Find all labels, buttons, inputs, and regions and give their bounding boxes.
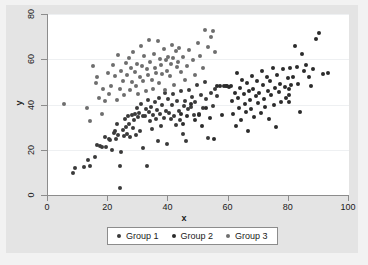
x-tick-mark-80 bbox=[288, 196, 289, 201]
x-tick-mark-60 bbox=[228, 196, 229, 201]
data-point bbox=[62, 102, 66, 106]
gridline-y-20 bbox=[48, 150, 349, 151]
data-point bbox=[250, 74, 254, 78]
data-point bbox=[278, 82, 282, 86]
data-point bbox=[119, 150, 123, 154]
data-point bbox=[192, 113, 196, 117]
data-point bbox=[257, 91, 261, 95]
data-point bbox=[136, 92, 140, 96]
data-point bbox=[124, 61, 128, 65]
data-point bbox=[163, 88, 167, 92]
data-point bbox=[184, 139, 188, 143]
data-point bbox=[157, 81, 161, 85]
data-point bbox=[106, 71, 110, 75]
data-point bbox=[262, 97, 266, 101]
data-point bbox=[88, 119, 92, 123]
data-point bbox=[254, 94, 258, 98]
data-point bbox=[166, 97, 170, 101]
legend-label: Group 2 bbox=[181, 231, 214, 241]
data-point bbox=[159, 124, 163, 128]
data-point bbox=[128, 88, 132, 92]
data-point bbox=[236, 96, 240, 100]
data-point bbox=[277, 90, 281, 94]
data-point bbox=[144, 89, 148, 93]
data-point bbox=[116, 133, 120, 137]
data-point bbox=[122, 93, 126, 97]
data-point bbox=[73, 166, 77, 170]
data-point bbox=[128, 135, 132, 139]
data-point bbox=[287, 93, 291, 97]
data-point bbox=[203, 80, 207, 84]
data-point bbox=[168, 74, 172, 78]
data-point bbox=[286, 76, 290, 80]
legend-entry-2[interactable]: Group 2 bbox=[172, 231, 214, 241]
scatter-plot-figure: 020406080 020406080100 y x Group 1Group … bbox=[0, 0, 368, 265]
data-point bbox=[158, 57, 162, 61]
data-point bbox=[152, 52, 156, 56]
data-point bbox=[109, 84, 113, 88]
data-point bbox=[200, 124, 204, 128]
data-point bbox=[295, 65, 299, 69]
data-point bbox=[261, 83, 265, 87]
data-point bbox=[170, 43, 174, 47]
y-tick-label-40: 40 bbox=[24, 100, 38, 110]
y-tick-mark-40 bbox=[41, 105, 47, 106]
data-point bbox=[147, 38, 151, 42]
data-point bbox=[157, 96, 161, 100]
data-point bbox=[230, 99, 234, 103]
y-tick-label-text: 60 bbox=[26, 54, 36, 64]
data-point bbox=[146, 98, 150, 102]
x-tick-label-20: 20 bbox=[92, 202, 122, 212]
data-point bbox=[213, 50, 217, 54]
data-point bbox=[103, 135, 107, 139]
data-point bbox=[142, 54, 146, 58]
data-point bbox=[159, 63, 163, 67]
data-point bbox=[172, 83, 176, 87]
gridline-y-80 bbox=[48, 14, 349, 15]
data-point bbox=[179, 89, 183, 93]
data-point bbox=[309, 84, 313, 88]
y-tick-label-text: 20 bbox=[26, 145, 36, 155]
x-tick-mark-100 bbox=[348, 196, 349, 201]
legend-label: Group 1 bbox=[126, 231, 159, 241]
data-point bbox=[103, 99, 107, 103]
data-point bbox=[304, 63, 308, 67]
x-axis-title: x bbox=[0, 213, 368, 223]
data-point bbox=[123, 117, 127, 121]
legend[interactable]: Group 1Group 2Group 3 bbox=[107, 227, 278, 245]
data-point bbox=[147, 110, 151, 114]
data-point bbox=[191, 58, 195, 62]
data-point bbox=[86, 158, 90, 162]
data-point bbox=[91, 64, 95, 68]
data-point bbox=[95, 75, 99, 79]
data-point bbox=[85, 106, 89, 110]
data-point bbox=[256, 101, 260, 105]
data-point bbox=[248, 98, 252, 102]
data-point bbox=[311, 67, 315, 71]
data-point bbox=[179, 70, 183, 74]
data-point bbox=[183, 99, 187, 103]
data-point bbox=[260, 69, 264, 73]
y-tick-label-80: 80 bbox=[24, 9, 38, 19]
data-point bbox=[134, 133, 138, 137]
x-tick-label-100: 100 bbox=[333, 202, 363, 212]
x-tick-label-80: 80 bbox=[273, 202, 303, 212]
data-point bbox=[229, 84, 233, 88]
data-point bbox=[169, 117, 173, 121]
data-point bbox=[119, 69, 123, 73]
data-point bbox=[317, 31, 321, 35]
data-point bbox=[220, 113, 224, 117]
data-point bbox=[287, 87, 291, 91]
data-point bbox=[110, 148, 114, 152]
data-point bbox=[190, 95, 194, 99]
data-point bbox=[211, 104, 215, 108]
legend-entry-3[interactable]: Group 3 bbox=[226, 231, 268, 241]
data-point bbox=[135, 106, 139, 110]
data-point bbox=[100, 112, 104, 116]
legend-label: Group 3 bbox=[235, 231, 268, 241]
data-point bbox=[104, 145, 108, 149]
data-point bbox=[165, 69, 169, 73]
legend-entry-1[interactable]: Group 1 bbox=[117, 231, 159, 241]
y-tick-label-20: 20 bbox=[24, 145, 38, 155]
x-tick-mark-20 bbox=[107, 196, 108, 201]
